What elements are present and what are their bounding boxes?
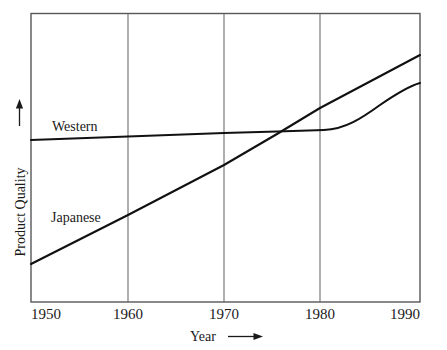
right-arrow-icon	[254, 333, 264, 340]
x-axis-arrow	[228, 333, 263, 340]
series-annotation-japanese: Japanese	[51, 210, 101, 225]
plot-frame	[31, 14, 420, 303]
line-chart: Product Quality 1950 1960 1970 1980 1990…	[0, 0, 447, 350]
y-axis-arrow	[16, 99, 23, 126]
x-tick-label-1970: 1970	[209, 306, 239, 322]
up-arrow-icon	[16, 99, 23, 109]
x-axis-title: Year	[190, 329, 216, 344]
x-tick-label-1950: 1950	[31, 306, 61, 322]
x-tick-label-1960: 1960	[113, 306, 143, 322]
grid-lines	[128, 14, 320, 302]
y-axis-title-text: Product Quality	[13, 167, 28, 256]
chart-figure: Product Quality 1950 1960 1970 1980 1990…	[0, 0, 447, 350]
x-tick-label-1980: 1980	[305, 306, 335, 322]
series-annotation-western: Western	[52, 119, 98, 134]
series-line-japanese	[31, 55, 420, 264]
y-axis-title: Product Quality	[13, 167, 28, 256]
x-axis-tick-labels: 1950 1960 1970 1980 1990	[31, 306, 420, 322]
x-tick-label-1990: 1990	[390, 306, 420, 322]
